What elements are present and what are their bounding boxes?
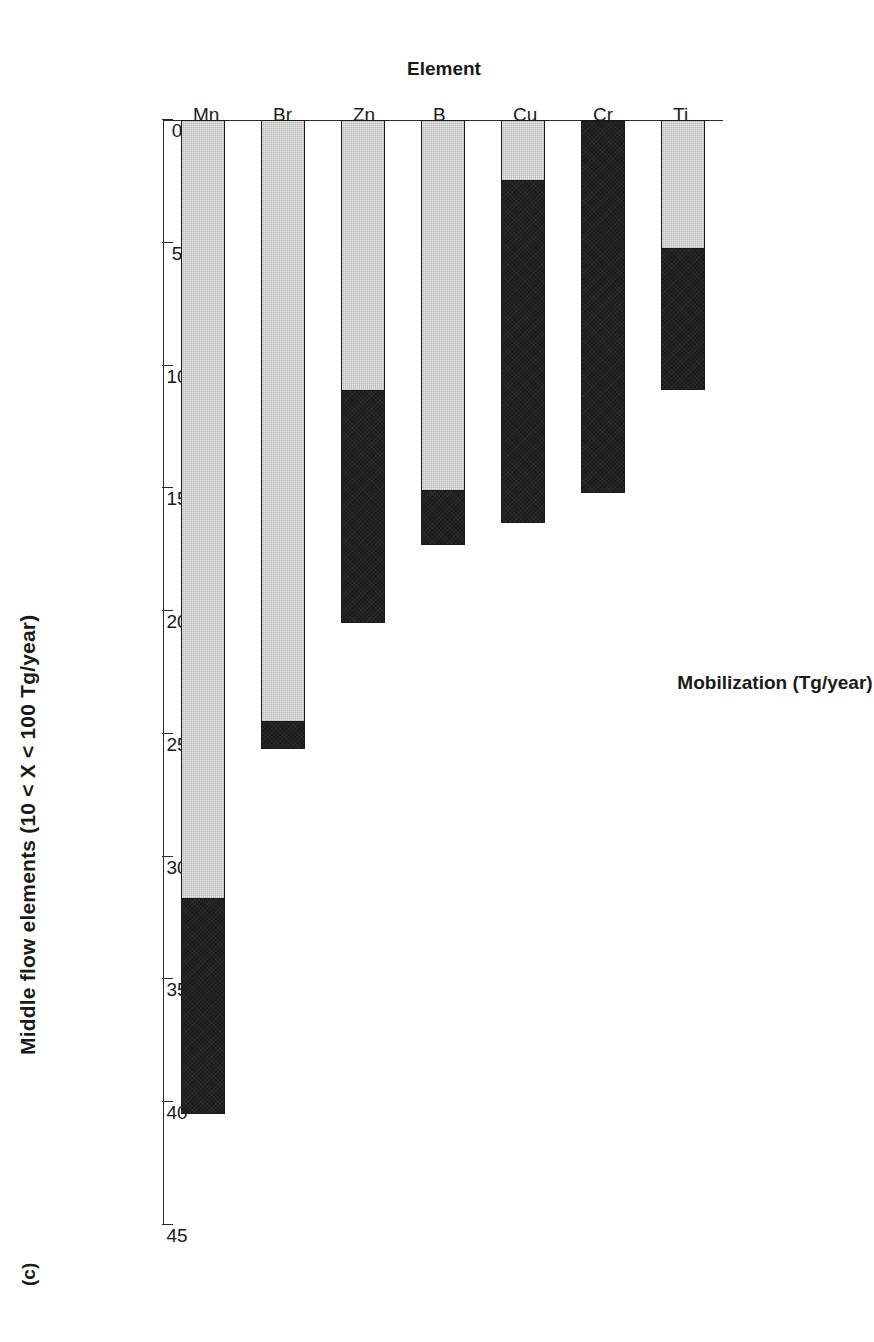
bar-segment-dark[interactable] — [422, 490, 465, 544]
x-axis-title: Element — [407, 58, 481, 80]
stacked-bar[interactable] — [501, 120, 546, 523]
stacked-bar[interactable] — [581, 120, 626, 493]
stacked-bar[interactable] — [341, 120, 386, 623]
y-axis-title: Mobilization (Tg/year) — [677, 673, 872, 695]
stacked-bar[interactable] — [661, 120, 706, 390]
bar-row[interactable] — [581, 120, 626, 1225]
value-tick-label: 45 — [166, 1225, 187, 1247]
category-label: B — [433, 104, 446, 126]
bar-segment-dark[interactable] — [582, 121, 625, 492]
stacked-bar[interactable] — [261, 120, 306, 749]
category-label: Cu — [513, 104, 537, 126]
category-label: Zn — [353, 104, 375, 126]
bar-row[interactable] — [341, 120, 386, 1225]
panel-label: (c) — [18, 1263, 40, 1286]
stacked-bar[interactable] — [421, 120, 466, 545]
category-label: Ti — [673, 104, 688, 126]
category-label: Mn — [193, 104, 219, 126]
chart-canvas: 051015202530354045 MnBrZnBCuCrTi Element… — [125, 65, 765, 1225]
category-axis-line — [163, 120, 164, 1225]
bar-row[interactable] — [421, 120, 466, 1225]
bar-segment-dark[interactable] — [502, 180, 545, 522]
bar-segment-dark[interactable] — [262, 721, 305, 748]
bar-row[interactable] — [501, 120, 546, 1225]
bar-segment-dark[interactable] — [662, 248, 705, 389]
bar-row[interactable] — [261, 120, 306, 1225]
bar-segment-dark[interactable] — [342, 390, 385, 622]
bar-segment-light[interactable] — [342, 121, 385, 390]
bar-segment-light[interactable] — [182, 121, 225, 898]
plot-area: 051015202530354045 MnBrZnBCuCrTi — [163, 120, 723, 1225]
bar-row[interactable] — [181, 120, 226, 1225]
category-label: Cr — [593, 104, 613, 126]
bar-segment-light[interactable] — [502, 121, 545, 180]
bar-segment-light[interactable] — [662, 121, 705, 248]
bar-segment-light[interactable] — [262, 121, 305, 721]
bar-segment-dark[interactable] — [182, 898, 225, 1114]
chart-title: Middle flow elements (10 < X < 100 Tg/ye… — [16, 615, 40, 1055]
bar-segment-light[interactable] — [422, 121, 465, 490]
category-label: Br — [273, 104, 292, 126]
stacked-bar[interactable] — [181, 120, 226, 1115]
